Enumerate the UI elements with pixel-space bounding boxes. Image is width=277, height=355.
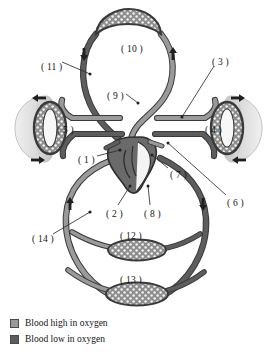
label-6: ( 6 ) bbox=[227, 199, 244, 209]
legend-label-oxygen-low: Blood low in oxygen bbox=[25, 334, 105, 344]
label-14: ( 14 ) bbox=[32, 235, 54, 245]
capillary-bed-upper-body bbox=[108, 240, 166, 261]
label-5: ( 5 ) bbox=[57, 126, 74, 136]
capillary-bed-lower-body bbox=[106, 283, 168, 306]
legend-label-oxygen-high: Blood high in oxygen bbox=[25, 318, 108, 328]
leader-9 bbox=[126, 94, 138, 103]
label-4: ( 4 ) bbox=[205, 126, 222, 136]
label-9: ( 9 ) bbox=[107, 92, 124, 102]
label-7: ( 7 ) bbox=[170, 171, 187, 181]
legend-item-oxygen-high: Blood high in oxygen bbox=[10, 316, 210, 330]
legend: Blood high in oxygen Blood low in oxygen bbox=[10, 316, 210, 348]
circulatory-diagram-figure: ( 1 ) ( 2 ) ( 3 ) ( 4 ) ( 5 ) ( 6 ) ( 7 … bbox=[0, 0, 277, 355]
leader-3 bbox=[182, 66, 214, 117]
label-13: ( 13 ) bbox=[120, 276, 142, 286]
label-10: ( 10 ) bbox=[121, 45, 143, 55]
legend-swatch-oxygen-low bbox=[10, 335, 19, 344]
label-1: ( 1 ) bbox=[78, 156, 95, 166]
heart bbox=[106, 137, 162, 193]
label-11: ( 11 ) bbox=[41, 63, 62, 73]
legend-item-oxygen-low: Blood low in oxygen bbox=[10, 332, 210, 346]
legend-swatch-oxygen-high bbox=[10, 319, 19, 328]
label-2: ( 2 ) bbox=[106, 210, 123, 220]
leader-8 bbox=[148, 186, 150, 205]
label-8: ( 8 ) bbox=[144, 210, 161, 220]
capillary-bed-head bbox=[96, 9, 161, 34]
label-3: ( 3 ) bbox=[212, 58, 229, 68]
leader-2 bbox=[118, 186, 130, 205]
label-12: ( 12 ) bbox=[120, 232, 142, 242]
